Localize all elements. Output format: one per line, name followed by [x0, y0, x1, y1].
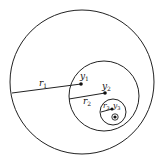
label-y2: y2 [101, 81, 111, 92]
nested-circles-diagram: r1 y1 y2 r2 r3 y3 [0, 0, 162, 163]
label-r1: r1 [39, 78, 47, 89]
label-y1: y1 [79, 71, 89, 82]
outer-circle [10, 10, 154, 154]
label-r2: r2 [83, 96, 91, 107]
point-y1 [79, 82, 83, 86]
bullseye-center [113, 115, 116, 118]
label-y3: y3 [112, 101, 120, 111]
label-r3: r3 [103, 101, 110, 111]
